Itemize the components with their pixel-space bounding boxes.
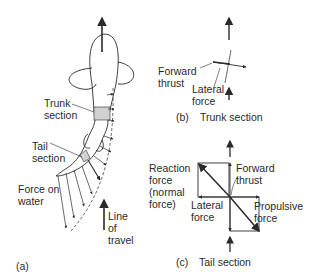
caption-b: Trunk section: [200, 111, 263, 123]
label-reaction-force: Reaction force (normal force): [149, 162, 190, 210]
label-lateral-force-b: Lateral force: [192, 83, 224, 107]
label-trunk-section: Trunk section: [44, 97, 77, 121]
label-line-of-travel: Line of travel: [108, 210, 134, 246]
caption-b-letter: (b): [176, 111, 189, 123]
label-propulsive-force: Propulsive force: [254, 200, 303, 224]
label-forward-thrust-c: Forward thrust: [236, 162, 275, 186]
caption-c: Tail section: [199, 256, 251, 268]
trunk-section-shading: [94, 107, 110, 120]
tail-section-diagram: [198, 141, 259, 252]
label-tail-section: Tail section: [32, 140, 65, 164]
label-lateral-force-c: Lateral force: [191, 199, 223, 223]
caption-c-letter: (c): [176, 256, 188, 268]
label-forward-thrust-b: Forward thrust: [158, 65, 197, 89]
caption-a: (a): [16, 260, 29, 272]
label-force-on-water: Force on water: [18, 183, 59, 207]
